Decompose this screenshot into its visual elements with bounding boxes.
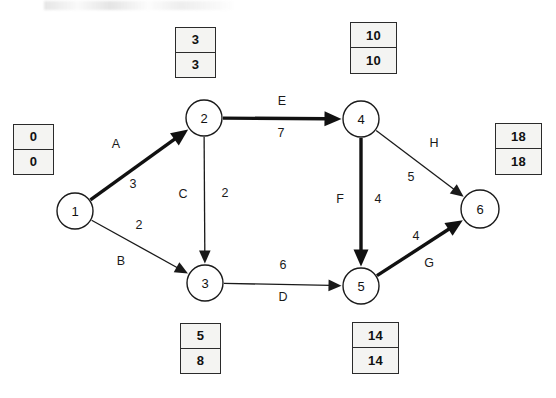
- edge-activity-label-E: E: [278, 94, 286, 108]
- node-3[interactable]: 3: [187, 265, 223, 301]
- edge-duration-label-E: 7: [278, 126, 285, 140]
- node-label-3: 3: [201, 276, 208, 291]
- event-time-box-node-5: 1414: [352, 322, 399, 374]
- event-time-box-node-4: 1010: [350, 22, 397, 74]
- earliest-event-time-node-6: 18: [496, 124, 541, 149]
- node-label-1: 1: [71, 204, 78, 219]
- edge-activity-label-C: C: [178, 187, 187, 201]
- edge-arrowhead-B: [174, 262, 188, 273]
- edge-duration-label-H: 5: [408, 170, 415, 184]
- edge-activity-label-H: H: [429, 136, 438, 150]
- edge-G: [377, 220, 463, 276]
- earliest-event-time-node-5: 14: [353, 323, 398, 348]
- edge-arrowhead-C: [199, 250, 211, 263]
- edge-A: [90, 129, 188, 199]
- edge-F: [354, 138, 369, 267]
- latest-event-time-node-2: 3: [176, 53, 215, 78]
- edge-activity-label-B: B: [117, 254, 125, 268]
- edge-arrowhead-H: [450, 184, 464, 196]
- edge-activity-label-D: D: [278, 290, 287, 304]
- node-label-2: 2: [200, 111, 207, 126]
- latest-event-time-node-5: 14: [353, 348, 398, 373]
- node-label-5: 5: [357, 279, 364, 294]
- node-2[interactable]: 2: [186, 100, 222, 136]
- edge-duration-label-B: 2: [136, 218, 143, 232]
- latest-event-time-node-6: 18: [496, 149, 541, 174]
- edge-arrowhead-D: [328, 280, 341, 292]
- edge-arrowhead-F: [354, 250, 369, 267]
- event-time-box-node-1: 00: [13, 124, 54, 175]
- edge-duration-label-G: 4: [413, 229, 420, 243]
- node-label-6: 6: [476, 202, 483, 217]
- edge-arrowhead-G: [444, 220, 462, 236]
- latest-event-time-node-4: 10: [351, 48, 396, 73]
- earliest-event-time-node-1: 0: [14, 125, 53, 150]
- node-6[interactable]: 6: [461, 190, 499, 228]
- node-4[interactable]: 4: [343, 101, 379, 137]
- edge-activity-label-A: A: [112, 137, 121, 151]
- network-graph-svg: A3B2C2D6E7F4G4H5123456: [0, 0, 556, 398]
- event-time-box-node-6: 1818: [495, 123, 542, 175]
- edge-C: [199, 137, 211, 264]
- edge-line-E: [223, 118, 327, 119]
- event-time-box-node-2: 33: [175, 27, 216, 78]
- edge-activity-label-G: G: [424, 256, 434, 270]
- earliest-event-time-node-3: 5: [181, 324, 220, 349]
- edge-arrowhead-A: [170, 129, 188, 145]
- edge-duration-label-F: 4: [375, 192, 382, 206]
- latest-event-time-node-1: 0: [14, 150, 53, 175]
- edge-duration-label-D: 6: [280, 258, 287, 272]
- edge-arrowhead-E: [324, 111, 341, 126]
- earliest-event-time-node-4: 10: [351, 23, 396, 48]
- edge-line-D: [224, 283, 331, 285]
- edge-line-C: [204, 137, 205, 253]
- edge-duration-label-A: 3: [130, 177, 137, 191]
- event-time-box-node-3: 58: [180, 323, 221, 374]
- node-label-4: 4: [357, 112, 364, 127]
- edge-activity-label-F: F: [336, 192, 344, 206]
- edge-E: [223, 111, 342, 126]
- node-1[interactable]: 1: [57, 193, 93, 229]
- network-diagram-canvas: A3B2C2D6E7F4G4H5123456 00335810101414181…: [0, 0, 556, 398]
- edge-H: [376, 130, 463, 196]
- latest-event-time-node-3: 8: [181, 349, 220, 374]
- earliest-event-time-node-2: 3: [176, 28, 215, 53]
- edge-duration-label-C: 2: [222, 186, 229, 200]
- edge-line-H: [376, 130, 455, 190]
- node-5[interactable]: 5: [343, 268, 379, 304]
